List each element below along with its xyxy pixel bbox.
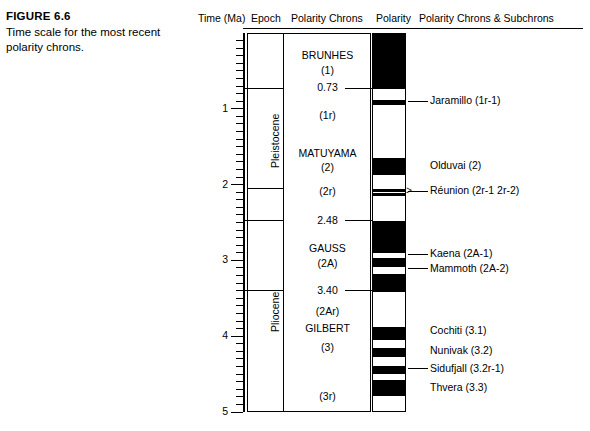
epoch-divider xyxy=(247,188,284,189)
epoch-column xyxy=(247,33,284,412)
axis-tick-major xyxy=(231,260,243,261)
column-header-subchrons: Polarity Chrons & Subchrons xyxy=(419,12,554,24)
axis-tick-minor xyxy=(236,389,243,390)
axis-tick-minor xyxy=(236,328,243,329)
axis-tick-label: 2 xyxy=(206,178,228,190)
polarity-chron-label: (2A) xyxy=(284,257,371,269)
polarity-chron-label: GAUSS xyxy=(284,242,371,254)
column-header-time: Time (Ma) xyxy=(198,12,245,24)
axis-tick-minor xyxy=(236,351,243,352)
polarity-band-olduvai xyxy=(373,158,405,175)
axis-tick-minor xyxy=(236,177,243,178)
axis-tick-minor xyxy=(236,116,243,117)
axis-tick-label: 1 xyxy=(206,102,228,114)
figure-time-scale: FIGURE 6.6 Time scale for the most recen… xyxy=(0,0,590,431)
axis-tick-minor xyxy=(236,267,243,268)
polarity-band-thvera xyxy=(373,380,405,395)
chron-boundary-tie-right xyxy=(345,220,372,221)
polarity-chron-label: (2r) xyxy=(284,185,371,197)
annotation-leader-line xyxy=(408,268,428,269)
axis-tick-minor xyxy=(236,374,243,375)
axis-tick-minor xyxy=(236,222,243,223)
axis-tick-minor xyxy=(236,366,243,367)
time-axis xyxy=(243,33,245,412)
header-rule xyxy=(243,28,583,29)
axis-tick-minor xyxy=(236,404,243,405)
axis-tick-minor xyxy=(236,313,243,314)
axis-tick-minor xyxy=(236,154,243,155)
annotation-arrowhead-icon: > xyxy=(406,186,412,196)
axis-tick-minor xyxy=(236,245,243,246)
subchron-annotation-label: Thvera (3.3) xyxy=(430,381,487,393)
axis-tick-minor xyxy=(236,169,243,170)
axis-tick-minor xyxy=(236,252,243,253)
polarity-chron-label: GILBERT xyxy=(284,322,371,334)
axis-tick-minor xyxy=(236,78,243,79)
axis-tick-minor xyxy=(236,343,243,344)
axis-tick-minor xyxy=(236,55,243,56)
polarity-band-nunivak xyxy=(373,348,405,357)
polarity-band-gauss-normal-c xyxy=(373,274,405,292)
axis-tick-minor xyxy=(236,321,243,322)
axis-tick-minor xyxy=(236,358,243,359)
epoch-label-pliocene: Pliocene xyxy=(269,292,281,332)
polarity-band-reunion-2r-1 xyxy=(373,189,405,192)
subchron-annotation-label: Mammoth (2A-2) xyxy=(430,262,509,274)
axis-tick-minor xyxy=(236,298,243,299)
axis-tick-minor xyxy=(236,230,243,231)
axis-tick-minor xyxy=(236,207,243,208)
axis-tick-minor xyxy=(236,283,243,284)
axis-tick-minor xyxy=(236,86,243,87)
axis-tick-minor xyxy=(236,275,243,276)
axis-tick-major xyxy=(231,184,243,185)
subchron-annotation-label: Kaena (2A-1) xyxy=(430,247,492,259)
axis-tick-minor xyxy=(236,192,243,193)
axis-tick-minor xyxy=(236,146,243,147)
annotation-leader-line xyxy=(408,254,428,255)
polarity-chron-label: (1r) xyxy=(284,109,371,121)
column-header-polarity-chrons: Polarity Chrons xyxy=(291,12,363,24)
polarity-chron-label: (3r) xyxy=(284,390,371,402)
chron-boundary-tie-right xyxy=(345,88,372,89)
polarity-band-sidufjall xyxy=(373,366,405,374)
axis-tick-minor xyxy=(236,381,243,382)
polarity-chron-label: (2Ar) xyxy=(284,305,371,317)
column-header-polarity: Polarity xyxy=(376,12,411,24)
axis-tick-label: 4 xyxy=(206,329,228,341)
axis-tick-minor xyxy=(236,63,243,64)
polarity-band-reunion-2r-2 xyxy=(373,193,405,196)
axis-tick-minor xyxy=(236,139,243,140)
epoch-label-pleistocene: Pleistocene xyxy=(269,114,281,168)
chron-boundary-tie-left xyxy=(243,88,283,89)
axis-tick-minor xyxy=(236,290,243,291)
axis-tick-minor xyxy=(236,161,243,162)
axis-tick-minor xyxy=(236,396,243,397)
annotation-leader-line xyxy=(408,101,428,102)
polarity-band-gauss-normal-b xyxy=(373,258,405,266)
figure-number: FIGURE 6.6 xyxy=(6,10,196,22)
axis-tick-minor xyxy=(236,123,243,124)
axis-tick-major xyxy=(231,336,243,337)
column-header-epoch: Epoch xyxy=(251,12,281,24)
axis-tick-minor xyxy=(236,101,243,102)
axis-tick-minor xyxy=(236,199,243,200)
polarity-band-brunhes-normal xyxy=(373,34,405,89)
axis-tick-minor xyxy=(236,48,243,49)
polarity-band-cochiti xyxy=(373,327,405,341)
axis-tick-minor xyxy=(236,214,243,215)
subchron-annotation-label: Jaramillo (1r-1) xyxy=(430,94,501,106)
chron-boundary-tie-left xyxy=(243,290,283,291)
axis-tick-minor xyxy=(236,70,243,71)
chron-boundary-tie-left xyxy=(243,220,283,221)
axis-tick-major xyxy=(231,412,243,413)
polarity-chron-label: BRUNHES xyxy=(284,49,371,61)
figure-caption-text: Time scale for the most recent polarity … xyxy=(6,25,196,55)
polarity-chron-label: (2) xyxy=(284,161,371,173)
subchron-annotation-label: Nunivak (3.2) xyxy=(430,344,492,356)
polarity-band-gauss-normal-a xyxy=(373,221,405,253)
subchron-annotation-label: Cochiti (3.1) xyxy=(430,324,487,336)
axis-tick-minor xyxy=(236,93,243,94)
subchron-annotation-label: Réunion (2r-1 2r-2) xyxy=(430,184,519,196)
subchron-annotation-label: Sidufjall (3.2r-1) xyxy=(430,362,504,374)
axis-tick-minor xyxy=(236,237,243,238)
